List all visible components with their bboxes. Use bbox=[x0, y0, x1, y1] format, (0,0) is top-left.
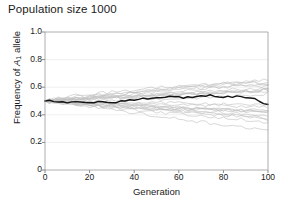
axes-frame bbox=[45, 32, 268, 170]
plot-canvas bbox=[0, 0, 294, 208]
chart-figure: Population size 1000 Frequency of A1 all… bbox=[0, 0, 294, 208]
gridlines bbox=[45, 60, 268, 143]
trace-group bbox=[45, 79, 268, 130]
